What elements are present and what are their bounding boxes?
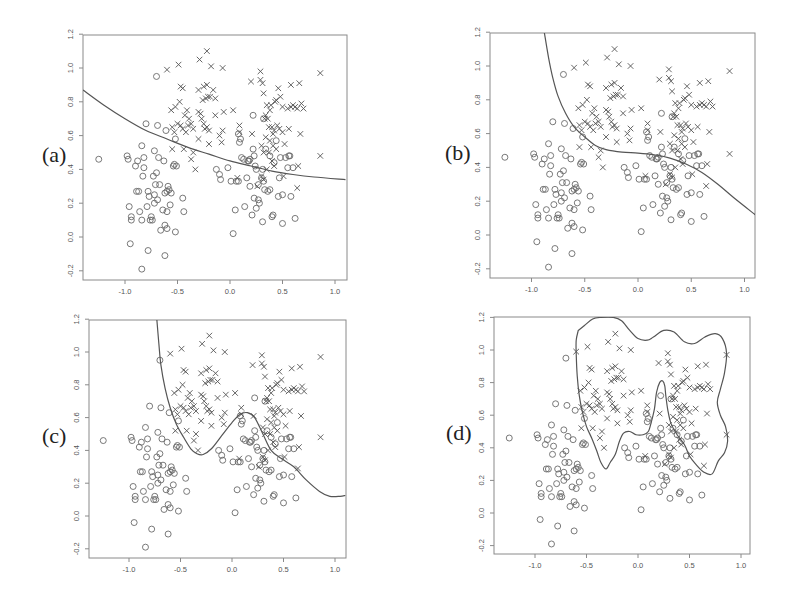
circle-marker — [548, 494, 554, 500]
cross-marker — [693, 406, 699, 412]
x-tick-label: 0.0 — [633, 561, 643, 570]
cross-marker — [625, 412, 631, 418]
circle-marker — [572, 407, 578, 413]
cross-marker — [701, 463, 707, 469]
cross-marker — [672, 396, 678, 402]
cross-marker — [676, 404, 682, 410]
cross-marker — [621, 393, 627, 399]
cross-marker — [671, 445, 677, 451]
cross-marker — [695, 364, 701, 370]
cross-marker — [628, 408, 634, 414]
circle-marker — [506, 435, 512, 441]
cross-marker — [592, 409, 598, 415]
circle-marker — [699, 492, 705, 498]
circle-marker — [571, 528, 577, 534]
cross-marker — [579, 425, 585, 431]
circle-marker — [564, 402, 570, 408]
cross-marker — [683, 367, 689, 373]
cross-marker — [702, 442, 708, 448]
circle-marker — [638, 507, 644, 513]
decision-boundary — [576, 317, 728, 475]
circle-marker — [649, 481, 655, 487]
cross-marker — [681, 378, 687, 384]
y-tick-label: 0.8 — [477, 377, 486, 387]
circle-marker — [687, 497, 693, 503]
cross-marker — [595, 396, 601, 402]
cross-marker — [597, 435, 603, 441]
circle-marker — [655, 461, 661, 467]
cross-marker — [582, 385, 588, 391]
cross-marker — [619, 368, 625, 374]
cross-marker — [644, 403, 650, 409]
cross-marker — [591, 393, 597, 399]
cross-marker — [604, 416, 610, 422]
x-tick-label: 1.0 — [736, 561, 746, 570]
cross-marker — [586, 380, 592, 386]
y-tick-label: 0.6 — [477, 410, 486, 420]
cross-marker — [665, 350, 671, 356]
cross-marker — [674, 388, 680, 394]
scatter-plot-d: -1.0-0.50.00.51.0-0.20.00.20.40.60.81.01… — [0, 0, 795, 607]
y-tick-label: 1.2 — [477, 312, 486, 322]
circle-marker — [548, 541, 554, 547]
cross-marker — [666, 452, 672, 458]
cross-marker — [638, 388, 644, 394]
cross-marker — [687, 409, 693, 415]
cross-marker — [670, 414, 676, 420]
circle-marker — [544, 437, 550, 443]
cross-marker — [689, 421, 695, 427]
circle-marker — [651, 453, 657, 459]
cross-marker — [607, 396, 613, 402]
circle-marker — [537, 517, 543, 523]
cross-marker — [667, 362, 673, 368]
panel-label-d: (d) — [446, 422, 472, 444]
circle-marker — [695, 471, 701, 477]
circle-marker — [561, 427, 567, 433]
circle-marker — [554, 481, 560, 487]
x-tick-label: -1.0 — [529, 561, 542, 570]
y-tick-label: 0.2 — [477, 475, 486, 485]
circle-marker — [536, 481, 542, 487]
circle-marker — [546, 486, 552, 492]
circle-marker — [658, 425, 664, 431]
circle-marker — [555, 523, 561, 529]
circle-marker — [551, 443, 557, 449]
cross-marker — [590, 425, 596, 431]
cross-marker — [675, 383, 681, 389]
circle-marker — [570, 437, 576, 443]
circle-marker — [551, 433, 557, 439]
cross-marker — [613, 331, 619, 337]
y-tick-label: 0.4 — [477, 443, 486, 453]
cross-marker — [628, 347, 634, 353]
cross-marker — [674, 417, 680, 423]
cross-marker — [627, 419, 633, 425]
circle-marker — [566, 459, 572, 465]
circle-marker — [658, 393, 664, 399]
circle-marker — [659, 432, 665, 438]
x-tick-label: -0.5 — [580, 561, 593, 570]
cross-marker — [621, 377, 627, 383]
cross-marker — [668, 372, 674, 378]
circle-marker — [576, 479, 582, 485]
y-axis: -0.20.00.20.40.60.81.01.2 — [477, 312, 494, 552]
circle-marker — [563, 355, 569, 361]
cross-marker — [687, 385, 693, 391]
cross-marker — [704, 411, 710, 417]
cross-marker — [656, 360, 662, 366]
cross-marker — [707, 386, 713, 392]
circle-marker — [677, 489, 683, 495]
cross-marker — [617, 346, 623, 352]
circle-marker — [633, 443, 639, 449]
circle-marker — [581, 505, 587, 511]
cross-marker — [657, 411, 663, 417]
circle-marker — [667, 495, 673, 501]
x-tick-label: 0.5 — [684, 561, 694, 570]
cross-marker — [605, 339, 611, 345]
cross-marker — [613, 404, 619, 410]
cross-marker — [665, 359, 671, 365]
cross-marker — [677, 422, 683, 428]
cross-marker — [668, 455, 674, 461]
circle-marker — [589, 473, 595, 479]
y-tick-label: -0.2 — [477, 539, 486, 552]
cross-marker — [701, 386, 707, 392]
